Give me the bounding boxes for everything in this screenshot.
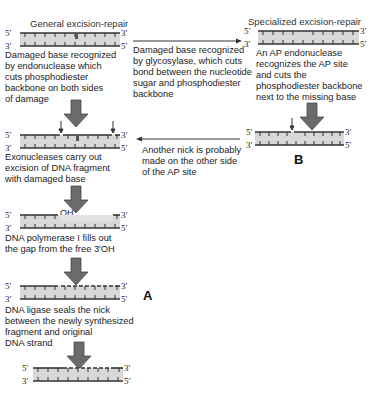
panel-label-b: B bbox=[294, 152, 303, 167]
dna-duplex-graphic bbox=[0, 0, 374, 399]
